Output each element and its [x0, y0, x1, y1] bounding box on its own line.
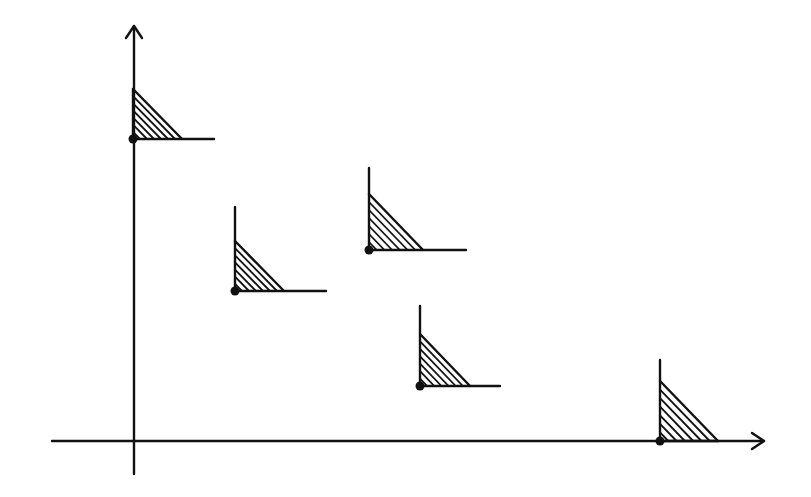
markers-group — [129, 89, 719, 446]
diagram-canvas — [0, 0, 811, 497]
marker-4 — [416, 306, 501, 391]
marker-1 — [129, 89, 215, 144]
hatch-line — [420, 349, 456, 386]
point-dot-icon — [231, 287, 240, 296]
point-dot-icon — [416, 382, 425, 391]
hatch-line — [369, 210, 408, 250]
diagram-svg — [0, 0, 811, 497]
hatch-line — [660, 398, 701, 441]
point-dot-icon — [656, 437, 665, 446]
marker-5 — [656, 360, 719, 446]
hatch-line — [133, 103, 168, 139]
marker-2 — [231, 207, 327, 296]
point-dot-icon — [365, 246, 374, 255]
hatch-line — [235, 255, 270, 291]
marker-3 — [365, 168, 467, 255]
point-dot-icon — [129, 135, 138, 144]
